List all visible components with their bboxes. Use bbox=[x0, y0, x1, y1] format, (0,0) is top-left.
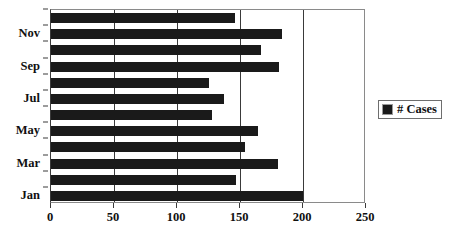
y-tick-mark bbox=[43, 89, 48, 90]
y-tick-mark bbox=[43, 25, 48, 26]
x-tick-label-100: 100 bbox=[167, 210, 186, 225]
bar-row bbox=[51, 123, 364, 139]
bar-row bbox=[51, 91, 364, 107]
y-tick-mark bbox=[43, 9, 48, 10]
legend-swatch-cases bbox=[382, 104, 393, 115]
x-tick-label-250: 250 bbox=[356, 210, 375, 225]
y-tick-label-jan: Jan bbox=[21, 188, 40, 201]
y-tick-label-sep: Sep bbox=[21, 59, 40, 72]
bar-jun bbox=[51, 110, 212, 120]
y-tick-mark bbox=[43, 138, 48, 139]
bar-row bbox=[51, 10, 364, 26]
bar-aug bbox=[51, 78, 209, 88]
y-tick-mark bbox=[43, 186, 48, 187]
bar-sep bbox=[51, 62, 279, 72]
legend-label-cases: # Cases bbox=[397, 103, 437, 116]
bar-apr bbox=[51, 142, 245, 152]
y-tick-label-mar: Mar bbox=[16, 156, 40, 169]
bar-row bbox=[51, 42, 364, 58]
bar-row bbox=[51, 139, 364, 155]
x-tick-mark-250 bbox=[365, 203, 366, 208]
y-tick-mark bbox=[43, 122, 48, 123]
bar-row bbox=[51, 75, 364, 91]
x-tick-mark-200 bbox=[302, 203, 303, 208]
y-tick-label-may: May bbox=[16, 124, 40, 137]
y-tick-label-nov: Nov bbox=[18, 27, 40, 40]
bar-may bbox=[51, 126, 258, 136]
bar-jan bbox=[51, 191, 303, 201]
legend: # Cases bbox=[378, 100, 442, 119]
bar-nov bbox=[51, 29, 282, 39]
x-tick-label-50: 50 bbox=[107, 210, 120, 225]
bar-oct bbox=[51, 45, 261, 55]
x-axis-ticks bbox=[50, 203, 366, 209]
x-tick-label-150: 150 bbox=[230, 210, 249, 225]
bar-row bbox=[51, 107, 364, 123]
plot-area bbox=[50, 9, 365, 203]
x-axis-labels: 050100150200250 bbox=[0, 210, 453, 230]
y-tick-mark bbox=[43, 106, 48, 107]
bar-jul bbox=[51, 94, 224, 104]
bar-row bbox=[51, 59, 364, 75]
bar-mar bbox=[51, 159, 278, 169]
bar-row bbox=[51, 172, 364, 188]
x-tick-label-0: 0 bbox=[47, 210, 53, 225]
bar-dec bbox=[51, 13, 235, 23]
bar-chart: JanMarMayJulSepNov 050100150200250 # Cas… bbox=[0, 0, 453, 238]
x-tick-mark-100 bbox=[176, 203, 177, 208]
y-tick-mark bbox=[43, 41, 48, 42]
x-tick-mark-0 bbox=[50, 203, 51, 208]
bar-row bbox=[51, 26, 364, 42]
y-tick-mark bbox=[43, 73, 48, 74]
bar-row bbox=[51, 188, 364, 204]
y-tick-label-jul: Jul bbox=[23, 91, 40, 104]
bar-feb bbox=[51, 175, 236, 185]
y-tick-mark bbox=[43, 154, 48, 155]
x-tick-mark-50 bbox=[113, 203, 114, 208]
bar-row bbox=[51, 156, 364, 172]
y-tick-mark bbox=[43, 170, 48, 171]
bars-layer bbox=[51, 10, 364, 202]
y-tick-mark bbox=[43, 57, 48, 58]
x-tick-mark-150 bbox=[239, 203, 240, 208]
x-tick-label-200: 200 bbox=[293, 210, 312, 225]
y-axis: JanMarMayJulSepNov bbox=[0, 9, 48, 203]
